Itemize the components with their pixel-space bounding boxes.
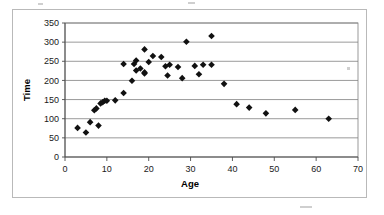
x-tick-label: 10	[102, 164, 112, 174]
chart-canvas: 050100150200250300350 010203040506070 Ag…	[0, 0, 384, 215]
data-point	[120, 90, 127, 97]
data-point	[208, 61, 215, 68]
data-point	[183, 38, 190, 45]
y-tick-label: 250	[44, 56, 59, 66]
data-point	[246, 104, 253, 111]
x-tick-label: 40	[227, 164, 237, 174]
data-point	[83, 129, 90, 136]
y-tick-label: 200	[44, 76, 59, 86]
data-point	[233, 101, 240, 108]
data-point	[200, 61, 207, 68]
y-tick-label: 150	[44, 95, 59, 105]
data-point	[208, 33, 215, 40]
data-point-group	[74, 33, 332, 136]
x-axis-title: Age	[181, 178, 199, 189]
x-tick-label: 30	[186, 164, 196, 174]
data-point	[145, 59, 152, 66]
data-point	[95, 122, 102, 129]
data-point	[150, 53, 157, 60]
data-point	[175, 64, 182, 71]
data-point	[191, 63, 198, 70]
data-point	[221, 81, 228, 88]
x-axis-ticks	[65, 157, 358, 161]
x-tick-label: 70	[353, 164, 363, 174]
data-point	[325, 115, 332, 122]
data-point	[112, 97, 119, 104]
data-point	[129, 78, 136, 85]
data-point	[141, 46, 148, 53]
x-tick-label: 50	[269, 164, 279, 174]
x-tick-label: 20	[144, 164, 154, 174]
x-axis-tick-labels: 010203040506070	[62, 164, 363, 174]
data-point	[158, 54, 165, 61]
data-point	[292, 107, 299, 114]
data-point	[141, 69, 148, 76]
y-tick-label: 0	[54, 152, 59, 162]
data-point	[74, 125, 81, 132]
y-tick-label: 350	[44, 18, 59, 28]
y-tick-label: 100	[44, 114, 59, 124]
data-point	[263, 110, 270, 117]
plot-area-border	[65, 23, 358, 157]
data-point	[87, 119, 94, 126]
data-point	[196, 71, 203, 78]
data-point	[164, 72, 171, 79]
x-tick-label: 0	[62, 164, 67, 174]
y-tick-label: 300	[44, 37, 59, 47]
gridlines	[65, 23, 358, 138]
y-tick-label: 50	[49, 133, 59, 143]
x-tick-label: 60	[311, 164, 321, 174]
y-axis-title: Time	[21, 79, 32, 101]
y-axis-tick-labels: 050100150200250300350	[44, 18, 59, 162]
scatter-chart: 050100150200250300350 010203040506070 Ag…	[0, 0, 384, 215]
